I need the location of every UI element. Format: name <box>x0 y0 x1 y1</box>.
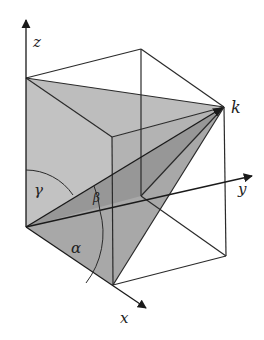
z-axis-label: z <box>32 33 41 51</box>
point-k-label: k <box>231 98 241 117</box>
beta-label: β <box>92 191 100 205</box>
alpha-label: α <box>71 239 81 257</box>
y-axis-label: y <box>237 180 247 198</box>
direction-angle-diagram: z x y k γ β α <box>0 0 264 340</box>
x-axis-label: x <box>120 309 129 327</box>
gamma-label: γ <box>34 181 43 199</box>
